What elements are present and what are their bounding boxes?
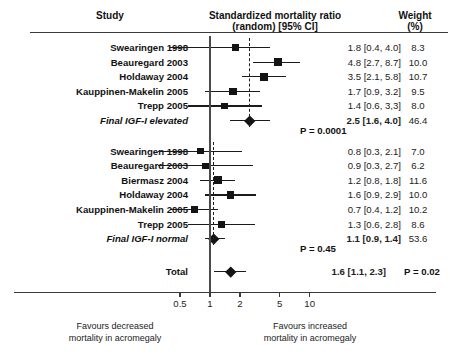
forest-row: Trepp 20051.3 [0.6, 2.8]8.6 [0,218,450,231]
effect-value-label: 0.8 [0.3, 2.1] [300,145,401,158]
axis-tick-label: 0.5 [165,298,195,309]
weight-value-label: 9.5 [396,85,440,98]
axis-tick [309,292,310,297]
summary-diamond-marker [225,266,236,277]
effect-estimate-marker [197,148,203,154]
axis-line [14,292,436,293]
forest-row: Holdaway 20041.6 [0.9, 2.9]10.0 [0,188,450,201]
weight-value-label: 7.0 [396,145,440,158]
study-label: Beauregard 2003 [18,56,188,69]
forest-row: Biermasz 20041.2 [0.8, 1.8]11.6 [0,174,450,187]
column-header-smr-line2: (random) [95% CI] [185,21,365,32]
axis-tick [179,292,180,297]
effect-value-label: 0.7 [0.4, 1.2] [300,203,401,216]
column-header-study: Study [35,10,185,21]
study-label: Trepp 2005 [18,218,188,231]
effect-estimate-marker [221,103,228,110]
study-label: Kauppinen-Makelin 2005 [18,85,188,98]
forest-row: Kauppinen-Makelin 20050.7 [0.4, 1.2]10.2 [0,203,450,216]
weight-value-label: 10.0 [396,56,440,69]
weight-value-label: 10.0 [396,188,440,201]
axis-tick [279,292,280,297]
column-header-weight-line2: (%) [385,21,445,32]
effect-estimate-marker [202,163,208,169]
forest-row: Kauppinen-Makelin 20051.7 [0.9, 3.2]9.5 [0,85,450,98]
subgroup-summary-weight: 53.6 [396,232,440,245]
weight-value-label: 8.6 [396,218,440,231]
axis-tick-label: 2 [225,298,255,309]
weight-value-label: 8.0 [396,99,440,112]
weight-value-label: 10.2 [396,203,440,216]
footnote-favours-decreased: Favours decreased mortality in acromegal… [25,320,205,344]
effect-value-label: 0.9 [0.3, 2.7] [300,159,401,172]
weight-value-label: 6.2 [396,159,440,172]
forest-row: Swearingen 19981.8 [0.4, 4.0]8.3 [0,41,450,54]
column-header-smr: Standardized mortality ratio (random) [9… [185,10,365,32]
effect-value-label: 1.8 [0.4, 4.0] [300,41,401,54]
subgroup-p-value: P = 0.0001 [300,125,401,136]
forest-row: Holdaway 20043.5 [2.1, 5.8]10.7 [0,70,450,83]
footnote-right-line2: mortality in acromegaly [215,332,405,344]
effect-value-label: 4.8 [2.7, 8.7] [300,56,401,69]
forest-row: Total1.6 [1.1, 2.3]P = 0.02 [0,265,450,278]
total-p-value: P = 0.02 [404,265,450,278]
effect-estimate-marker [274,58,282,66]
forest-row: Beauregard 20030.9 [0.3, 2.7]6.2 [0,159,450,172]
confidence-interval-line [170,47,270,48]
effect-value-label: 1.6 [0.9, 2.9] [300,188,401,201]
study-label: Trepp 2005 [18,99,188,112]
axis-tick-label: 5 [265,298,295,309]
subgroup-reference-line-2 [213,142,214,246]
effect-estimate-marker [218,221,225,228]
effect-value-label: 1.2 [0.8, 1.8] [300,174,401,187]
effect-estimate-marker [229,88,236,95]
subgroup-summary-label: Final IGF-I elevated [18,114,188,127]
column-header-smr-line1: Standardized mortality ratio [185,10,365,21]
footnote-right-line1: Favours increased [215,320,405,332]
subgroup-summary-weight: 46.4 [396,114,440,127]
axis-tick-label: 10 [295,298,325,309]
study-label: Holdaway 2004 [18,70,188,83]
effect-value-label: 1.4 [0.6, 3,3] [300,99,401,112]
effect-value-label: 3.5 [2.1, 5.8] [300,70,401,83]
forest-plot: Study Standardized mortality ratio (rand… [0,0,450,358]
effect-estimate-marker [214,176,222,184]
axis-tick [209,292,210,297]
effect-value-label: 1.3 [0.6, 2.8] [300,218,401,231]
total-effect-value: 1.6 [1.1, 2.3] [285,265,386,278]
footnote-favours-increased: Favours increased mortality in acromegal… [215,320,405,344]
footnote-left-line1: Favours decreased [25,320,205,332]
forest-row: Beauregard 20034.8 [2.7, 8.7]10.0 [0,56,450,69]
study-label: Holdaway 2004 [18,188,188,201]
header-divider [30,32,448,33]
weight-value-label: 11.6 [396,174,440,187]
null-effect-reference-line [209,36,211,292]
weight-value-label: 8.3 [396,41,440,54]
effect-estimate-marker [232,44,239,51]
column-header-weight-line1: Weight [385,10,445,21]
forest-row: Trepp 20051.4 [0.6, 3,3]8.0 [0,99,450,112]
effect-estimate-marker [260,73,268,81]
effect-estimate-marker [191,206,199,214]
footnote-left-line2: mortality in acromegaly [25,332,205,344]
total-label: Total [18,265,188,278]
column-header-weight: Weight (%) [385,10,445,32]
study-label: Biermasz 2004 [18,174,188,187]
study-label: Kauppinen-Makelin 2005 [18,203,188,216]
weight-value-label: 10.7 [396,70,440,83]
forest-row: Swearingen 19980.8 [0.3, 2.1]7.0 [0,145,450,158]
effect-estimate-marker [227,191,235,199]
subgroup-summary-label: Final IGF-I normal [18,232,188,245]
axis-tick [239,292,240,297]
subgroup-reference-line-1 [249,38,250,127]
subgroup-p-value: P = 0.45 [300,243,401,254]
effect-value-label: 1.7 [0.9, 3.2] [300,85,401,98]
study-label: Swearingen 1998 [18,41,188,54]
axis-tick-label: 1 [195,298,225,309]
